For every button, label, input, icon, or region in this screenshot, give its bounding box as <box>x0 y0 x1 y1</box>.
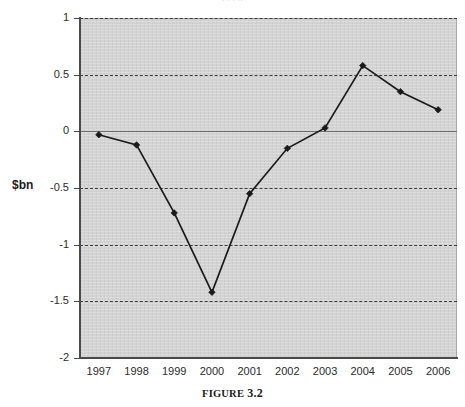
y-tick-mark <box>74 18 81 19</box>
x-tick-label-2006: 2006 <box>415 366 461 377</box>
figure-caption-number: 3.2 <box>247 386 263 400</box>
gridline-neg1_5 <box>80 301 457 302</box>
y-tick-label: -0.5 <box>9 182 69 193</box>
y-tick-mark <box>74 301 81 302</box>
x-axis-line <box>79 357 458 359</box>
gridline-0_5 <box>80 75 457 76</box>
y-tick-label: 1 <box>9 12 69 23</box>
figure-caption: FIGURE 3.2 <box>0 386 465 401</box>
gridline-0 <box>80 131 457 132</box>
y-tick-mark <box>74 358 81 359</box>
gridline-1 <box>80 18 457 19</box>
figure-container: $bn 10.50-0.5-1-1.5-2 199719981999200020… <box>0 0 465 407</box>
y-tick-mark <box>74 188 81 189</box>
y-tick-mark <box>74 75 81 76</box>
y-tick-label: -1 <box>9 239 69 250</box>
y-tick-label: 0 <box>9 125 69 136</box>
y-tick-mark <box>74 245 81 246</box>
y-tick-label: 0.5 <box>9 69 69 80</box>
gridline-neg0_5 <box>80 188 457 189</box>
y-tick-label: -2 <box>9 352 69 363</box>
figure-caption-prefix: FIGURE <box>202 388 244 399</box>
gridline-neg1 <box>80 245 457 246</box>
y-tick-label: -1.5 <box>9 295 69 306</box>
y-tick-mark <box>74 131 81 132</box>
